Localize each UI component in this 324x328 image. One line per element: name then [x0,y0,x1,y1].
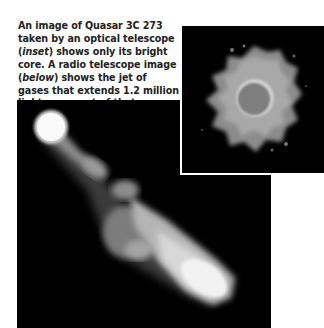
caption-below-word: below [22,72,54,83]
caption-inset-word: inset [22,46,48,57]
caption: An image of Quasar 3C 273 taken by an op… [18,20,180,110]
optical-telescope-inset [180,24,324,175]
optical-core-graphic [182,26,324,173]
inset-image-area [182,26,324,173]
